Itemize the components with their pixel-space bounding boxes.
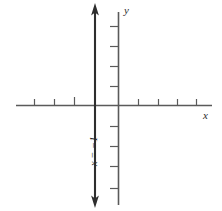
x-axis-label: x <box>203 110 208 121</box>
coordinate-plane-graph: x y x = −1 <box>0 0 222 211</box>
line-equation-label: x = −1 <box>89 126 100 176</box>
y-axis-label: y <box>124 5 129 16</box>
x-axis-group <box>16 97 212 106</box>
y-axis-group <box>110 12 119 205</box>
graph-svg <box>0 0 222 211</box>
